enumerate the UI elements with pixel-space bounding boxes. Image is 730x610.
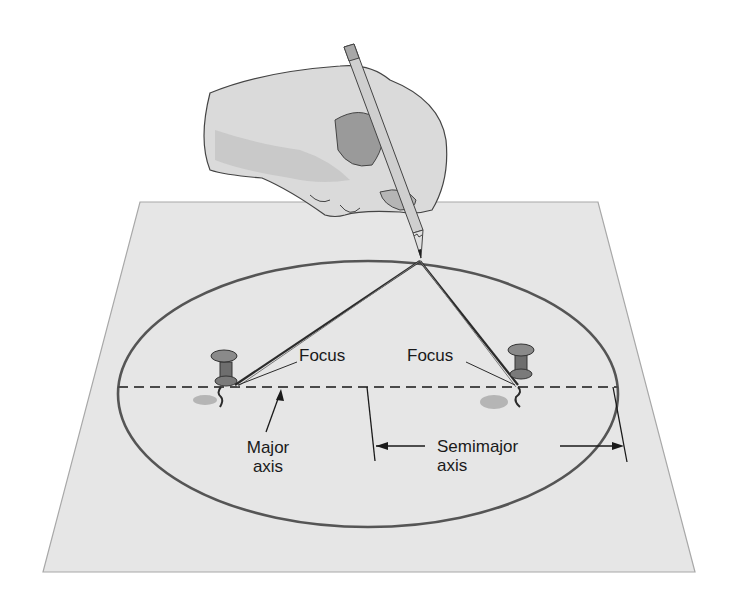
hand-icon	[204, 66, 447, 217]
focus-left-label: Focus	[299, 346, 345, 365]
major-axis-label-line2: axis	[238, 457, 298, 476]
major-axis-label: Major axis	[238, 438, 298, 476]
left-pin-shadow	[193, 395, 217, 405]
semimajor-axis-label: Semimajor axis	[437, 437, 518, 475]
ellipse-diagram	[0, 0, 730, 610]
focus-right-label: Focus	[407, 346, 453, 365]
right-pin-shadow	[480, 395, 508, 409]
semimajor-axis-label-line2: axis	[437, 456, 518, 475]
semimajor-axis-label-line1: Semimajor	[437, 437, 518, 456]
major-axis-label-line1: Major	[238, 438, 298, 457]
